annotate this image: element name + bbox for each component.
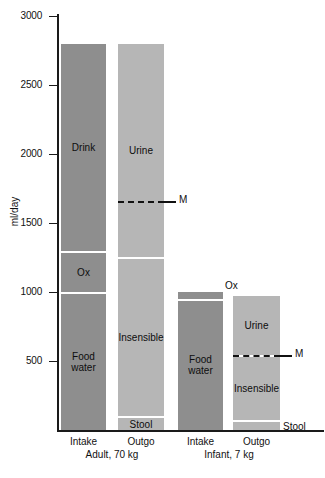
bar-segment: Insensible — [118, 257, 164, 416]
bar-segment: Stool — [118, 416, 164, 430]
bar-segment: Ox — [61, 251, 106, 292]
segment-label: Urine — [245, 320, 269, 331]
y-tick-label: 2500 — [0, 80, 42, 90]
y-tick-label: 1000 — [0, 287, 42, 297]
segment-label: Drink — [72, 142, 95, 153]
marker-leader-line — [164, 201, 176, 203]
water-balance-chart: ml/day 30002500200015001000500 DrinkOxFo… — [0, 0, 325, 478]
stacked-bar: DrinkOxFood water — [61, 44, 106, 430]
stacked-bar: UrineInsensibleStool — [233, 296, 280, 430]
y-tick-label: 3000 — [0, 11, 42, 21]
marker-label: M — [295, 348, 303, 359]
segment-label: Ox — [77, 267, 90, 278]
bar-segment: Food water — [178, 299, 223, 430]
bar-segment: Stool — [233, 420, 280, 430]
bar-segment: Drink — [61, 44, 106, 251]
bar-segment: Insensible — [233, 355, 280, 420]
bar-segment: Urine — [118, 44, 164, 258]
x-axis-line — [57, 430, 324, 432]
y-tick-label: 1500 — [0, 218, 42, 228]
group-axis-label: Infant, 7 kg — [169, 449, 289, 460]
marker-leader-line — [280, 355, 292, 357]
segment-label: Stool — [130, 419, 153, 430]
stacked-bar: UrineInsensibleStool — [118, 44, 164, 430]
y-axis-line — [57, 14, 59, 432]
segment-label: Insensible — [234, 383, 279, 394]
y-tick-mark — [49, 361, 57, 362]
y-tick-mark — [49, 292, 57, 293]
bar-segment: Urine — [233, 296, 280, 355]
y-tick-label: 2000 — [0, 149, 42, 159]
bar-segment: Ox — [178, 292, 223, 299]
segment-label: Urine — [129, 145, 153, 156]
y-tick-mark — [49, 223, 57, 224]
bar-segment: Food water — [61, 292, 106, 430]
segment-label: Food water — [71, 351, 95, 373]
segment-label: Food water — [188, 354, 212, 376]
group-axis-label: Adult, 70 kg — [52, 449, 172, 460]
stacked-bar: OxFood water — [178, 292, 223, 430]
y-tick-mark — [49, 16, 57, 17]
bar-axis-label: Outgo — [217, 436, 297, 447]
y-tick-mark — [49, 85, 57, 86]
segment-label: Ox — [225, 280, 238, 291]
segment-label: Insensible — [118, 332, 163, 343]
y-tick-label: 500 — [0, 356, 42, 366]
marker-label: M — [179, 194, 187, 205]
y-axis-title: ml/day — [9, 182, 20, 242]
y-tick-mark — [49, 154, 57, 155]
